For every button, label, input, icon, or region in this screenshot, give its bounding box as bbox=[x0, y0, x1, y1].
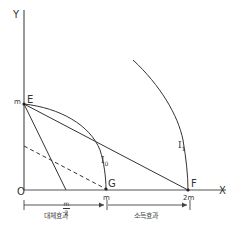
arrowhead-substitution bbox=[99, 203, 104, 208]
y-tick-m: m bbox=[14, 99, 21, 106]
curve-i0-label: I0 bbox=[101, 156, 108, 167]
curve-i0-subscript: 0 bbox=[105, 160, 109, 167]
arrowhead-income bbox=[182, 203, 187, 208]
curve-i1-label: I1 bbox=[178, 141, 185, 152]
x-tick-2m: 2m bbox=[183, 195, 194, 202]
indifference-curve-i1 bbox=[133, 60, 188, 190]
budget-line-e-half-m bbox=[24, 104, 66, 190]
x-tick-m: m bbox=[103, 195, 110, 202]
x-axis-label: X bbox=[219, 186, 226, 196]
compensated-budget-line bbox=[24, 146, 106, 189]
budget-line-e-f bbox=[24, 104, 188, 190]
curve-i1-subscript: 1 bbox=[182, 145, 186, 152]
point-e-label: E bbox=[27, 95, 33, 105]
income-effect-label: 소득효과 bbox=[134, 213, 158, 220]
indifference-curve-diagram bbox=[0, 0, 241, 230]
indifference-curve-i0 bbox=[24, 104, 106, 189]
origin-label: O bbox=[17, 187, 25, 197]
y-axis-label: Y bbox=[13, 10, 19, 20]
point-e bbox=[22, 102, 25, 105]
point-f bbox=[186, 188, 189, 191]
point-f-label: F bbox=[191, 179, 197, 189]
point-g-label: G bbox=[108, 179, 116, 189]
x-tick-half-m-numerator: m bbox=[64, 201, 70, 207]
substitution-effect-label: 대체효과 bbox=[44, 213, 68, 220]
